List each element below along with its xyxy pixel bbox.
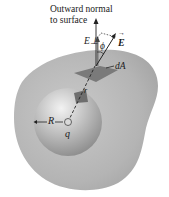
label-dA: dA: [115, 62, 126, 72]
title-line2: to surface: [50, 16, 87, 26]
label-R: R: [48, 116, 54, 126]
label-e-vector-arrow: →: [118, 30, 125, 37]
label-e-perp: E⊥: [84, 37, 98, 47]
title-line1: Outward normal: [50, 5, 113, 15]
gauss-law-diagram: [0, 0, 169, 197]
charge-q-icon: [65, 119, 72, 126]
label-phi: ϕ: [100, 42, 105, 52]
label-e-vector: E: [118, 38, 125, 48]
normal-arrowhead-icon: [94, 18, 99, 24]
label-r: r: [84, 87, 87, 95]
label-q: q: [65, 129, 70, 139]
